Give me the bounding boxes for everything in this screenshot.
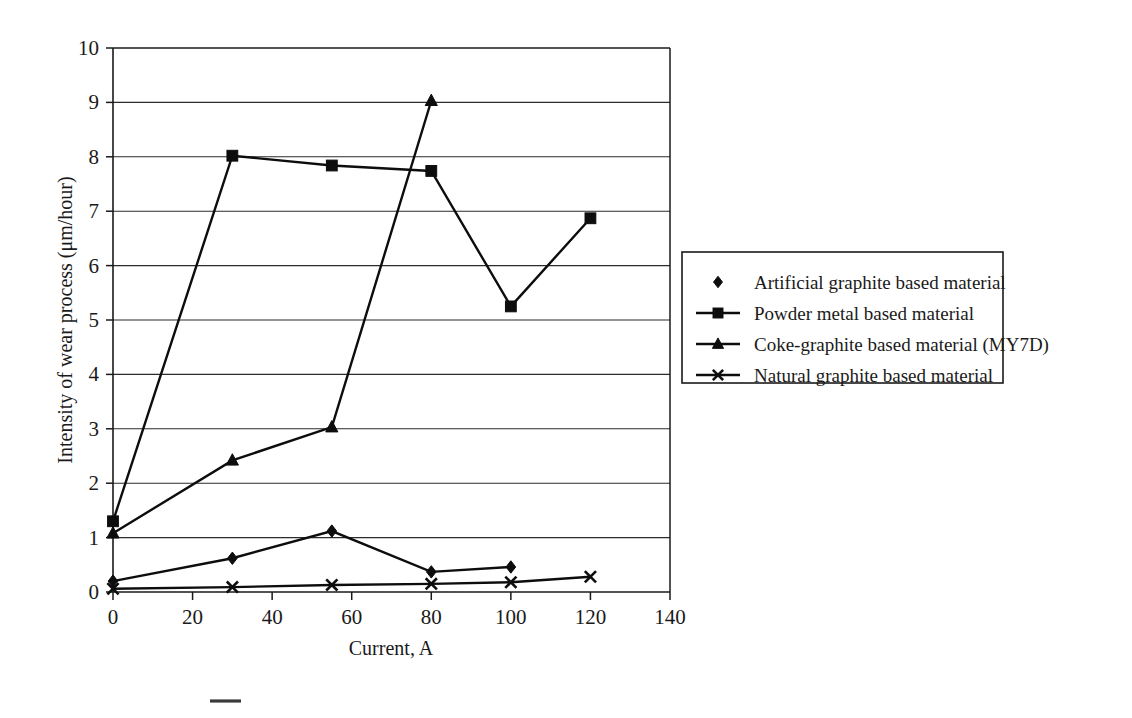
y-tick-label: 9 — [89, 90, 100, 114]
x-tick-label: 0 — [108, 605, 119, 629]
y-tick-label: 0 — [89, 580, 100, 604]
y-tick-label: 4 — [89, 362, 100, 386]
x-tick-label: 20 — [182, 605, 203, 629]
y-tick-label: 3 — [89, 417, 100, 441]
x-tick-label: 140 — [654, 605, 686, 629]
x-tick-label: 60 — [341, 605, 362, 629]
data-point-marker — [426, 166, 437, 177]
y-tick-label: 10 — [78, 36, 99, 60]
y-tick-label: 5 — [89, 308, 100, 332]
y-tick-label: 6 — [89, 254, 100, 278]
x-axis-title: Current, A — [349, 637, 434, 659]
wear-intensity-line-chart: 012345678910 020406080100120140 Current,… — [0, 0, 1132, 718]
legend-label: Coke-graphite based material (MY7D) — [754, 334, 1049, 356]
x-tick-label: 80 — [421, 605, 442, 629]
data-point-marker — [108, 516, 119, 527]
legend-label: Natural graphite based material — [754, 365, 993, 386]
data-point-marker — [505, 301, 516, 312]
legend-label: Artificial graphite based material — [754, 272, 1006, 293]
legend-item[interactable]: Artificial graphite based material — [714, 272, 1006, 293]
data-point-marker — [227, 150, 238, 161]
figure-root: 012345678910 020406080100120140 Current,… — [0, 0, 1132, 718]
y-axis-title: Intensity of wear process (μm/hour) — [54, 176, 77, 463]
x-tick-label: 100 — [495, 605, 527, 629]
x-tick-label: 120 — [575, 605, 607, 629]
x-tick-label: 40 — [262, 605, 283, 629]
legend-marker-square — [713, 308, 723, 318]
y-tick-label: 1 — [89, 526, 100, 550]
y-tick-label: 7 — [89, 199, 100, 223]
y-tick-label: 2 — [89, 471, 100, 495]
data-point-marker — [585, 213, 596, 224]
legend-label: Powder metal based material — [754, 303, 974, 324]
data-point-marker — [326, 160, 337, 171]
y-tick-label: 8 — [89, 145, 100, 169]
